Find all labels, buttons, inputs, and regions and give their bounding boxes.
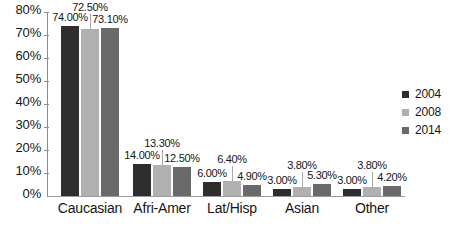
bar[interactable] bbox=[273, 189, 291, 196]
bar[interactable] bbox=[383, 186, 401, 196]
bar-group: 3.00%3.80%5.30% bbox=[273, 12, 331, 196]
bar-value-label: 4.20% bbox=[371, 172, 413, 183]
x-axis-line bbox=[47, 196, 405, 197]
bar[interactable] bbox=[81, 29, 99, 196]
legend-item[interactable]: 2008 bbox=[402, 104, 441, 120]
y-axis-tick-label: 80% bbox=[16, 3, 41, 16]
bar-value-label: 3.80% bbox=[351, 160, 393, 171]
bar-value-label: 73.10% bbox=[89, 14, 131, 25]
legend-item[interactable]: 2004 bbox=[402, 86, 441, 102]
y-axis-tick-label: 50% bbox=[16, 72, 41, 85]
bar-value-label: 14.00% bbox=[121, 150, 163, 161]
bar[interactable] bbox=[101, 28, 119, 196]
legend-item-label: 2014 bbox=[415, 124, 441, 136]
bar[interactable] bbox=[363, 187, 381, 196]
bar-group: 74.00%72.50%73.10% bbox=[61, 12, 119, 196]
bar[interactable] bbox=[343, 189, 361, 196]
bar-value-label: 13.30% bbox=[141, 138, 183, 149]
bar-value-label: 6.00% bbox=[191, 168, 233, 179]
bar-value-label: 74.00% bbox=[49, 12, 91, 23]
legend-swatch-icon bbox=[402, 91, 409, 98]
y-axis-tick-label: 40% bbox=[16, 95, 41, 108]
bar[interactable] bbox=[223, 181, 241, 196]
bar-group: 6.00%6.40%4.90% bbox=[203, 12, 261, 196]
bar-chart: 80%70%60%50%40%30%20%10%0% 74.00%72.50%7… bbox=[0, 0, 453, 228]
bar-value-label: 3.00% bbox=[261, 175, 303, 186]
y-axis-tick-label: 60% bbox=[16, 49, 41, 62]
bar-group: 14.00%13.30%12.50% bbox=[133, 12, 191, 196]
bar-value-label: 6.40% bbox=[211, 154, 253, 165]
y-axis-tick-label: 0% bbox=[23, 187, 41, 200]
bar-value-label: 72.50% bbox=[69, 2, 111, 13]
bar-value-label: 12.50% bbox=[161, 153, 203, 164]
legend-item-label: 2004 bbox=[415, 88, 441, 100]
y-axis-tick-label: 30% bbox=[16, 118, 41, 131]
bar[interactable] bbox=[293, 187, 311, 196]
bar-group: 3.00%3.80%4.20% bbox=[343, 12, 401, 196]
bar[interactable] bbox=[61, 26, 79, 196]
bar[interactable] bbox=[153, 165, 171, 196]
legend-swatch-icon bbox=[402, 109, 409, 116]
bar[interactable] bbox=[173, 167, 191, 196]
bar[interactable] bbox=[203, 182, 221, 196]
legend-swatch-icon bbox=[402, 127, 409, 134]
y-axis-tick-label: 10% bbox=[16, 164, 41, 177]
legend-item-label: 2008 bbox=[415, 106, 441, 118]
x-axis-category-label: Other bbox=[327, 200, 417, 216]
legend: 200420082014 bbox=[402, 86, 441, 140]
y-axis-tick-label: 20% bbox=[16, 141, 41, 154]
bar-value-label: 3.00% bbox=[331, 175, 373, 186]
legend-item[interactable]: 2014 bbox=[402, 122, 441, 138]
bar[interactable] bbox=[133, 164, 151, 196]
bar[interactable] bbox=[313, 184, 331, 196]
bar[interactable] bbox=[243, 185, 261, 196]
y-axis-tick-label: 70% bbox=[16, 26, 41, 39]
plot-area: 74.00%72.50%73.10%14.00%13.30%12.50%6.00… bbox=[48, 12, 405, 196]
